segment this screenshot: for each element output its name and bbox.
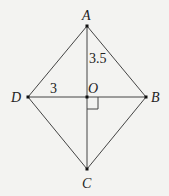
label-d: D — [10, 90, 21, 105]
point-b — [145, 96, 148, 99]
label-c: C — [82, 176, 92, 191]
side-da — [28, 26, 87, 97]
right-angle-mark — [87, 97, 98, 109]
point-c — [86, 168, 89, 171]
label-b: B — [151, 90, 160, 105]
label-a: A — [81, 8, 91, 23]
point-a — [86, 25, 89, 28]
side-cd — [28, 97, 87, 169]
label-ao-length: 3.5 — [89, 51, 107, 66]
diagram-svg: A B C D O 3.5 3 — [0, 0, 169, 196]
point-d — [27, 96, 30, 99]
side-bc — [87, 97, 146, 169]
label-do-length: 3 — [50, 81, 57, 96]
rhombus-diagram: A B C D O 3.5 3 — [0, 0, 169, 196]
label-o: O — [88, 81, 98, 96]
